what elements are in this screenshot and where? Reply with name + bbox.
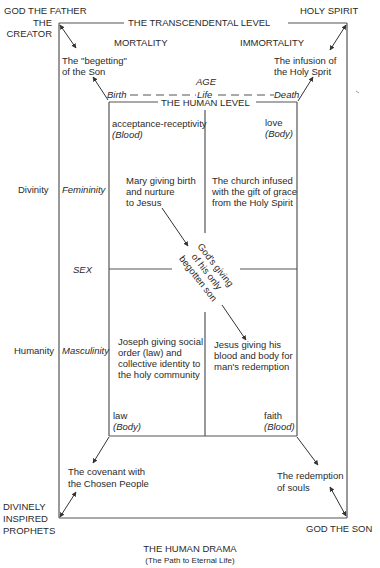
corner-holy-spirit: HOLY SPIRIT <box>300 5 358 17</box>
arrow-faith-redemption <box>297 437 318 465</box>
footer-subtitle: (The Path to Eternal Life) <box>130 555 250 567</box>
age-title: AGE <box>196 76 216 88</box>
redemption-souls-line2: of souls <box>277 482 310 494</box>
immortality-label: IMMORTALITY <box>240 37 304 49</box>
corner-divinely: DIVINELY <box>3 501 46 513</box>
age-life: Life <box>197 89 212 101</box>
infusion-line2: the Holy Sprit <box>274 66 331 78</box>
arrow-covenant-prophets <box>60 492 76 517</box>
joseph-line4: the holy community <box>118 369 200 381</box>
covenant-line2: the Chosen People <box>68 478 149 490</box>
arrow-spirit-infusion <box>330 25 346 50</box>
arrow-father-begetting <box>60 25 76 48</box>
faith-blood-label: (Blood) <box>264 421 295 433</box>
jesus-line3: man's redemption <box>214 361 289 373</box>
diagram-lines <box>0 0 380 568</box>
femininity-label: Femininity <box>62 184 105 196</box>
mary-line3: to Jesus <box>126 197 161 209</box>
arrow-law-covenant <box>93 437 109 463</box>
church-line3: from the Holy Spirit <box>212 197 293 209</box>
age-birth: Birth <box>107 89 127 101</box>
mortality-label: MORTALITY <box>114 37 168 49</box>
love-body-label: (Body) <box>265 128 293 140</box>
corner-prophets: PROPHETS <box>3 525 55 537</box>
corner-inspired: INSPIRED <box>3 513 48 525</box>
corner-god-the-father: GOD THE FATHER <box>4 5 87 17</box>
humanity-label: Humanity <box>14 345 54 357</box>
arrow-redemption-son <box>330 487 346 516</box>
begetting-line2: of the Son <box>62 66 105 78</box>
arrow-infusion-death <box>298 77 313 101</box>
corner-god-the-son: GOD THE SON <box>306 523 372 535</box>
stray-mark <box>356 91 359 93</box>
masculinity-label: Masculinity <box>62 345 109 357</box>
arrow-begetting-birth <box>93 77 108 100</box>
corner-creator: CREATOR <box>4 28 52 40</box>
transcendental-level-title: THE TRANSCENDENTAL LEVEL <box>128 17 270 29</box>
footer-title: THE HUMAN DRAMA <box>130 543 250 555</box>
age-death: Death <box>274 89 299 101</box>
divinity-label: Divinity <box>18 184 49 196</box>
redemption-souls-line1: The redemption <box>277 470 344 482</box>
acceptance-blood-label: (Blood) <box>112 129 143 141</box>
covenant-line1: The covenant with <box>68 466 145 478</box>
sex-label: SEX <box>73 264 92 276</box>
law-body-label: (Body) <box>113 421 141 433</box>
